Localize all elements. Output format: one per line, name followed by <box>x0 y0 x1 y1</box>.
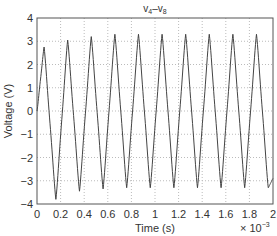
y-axis-label: Voltage (V) <box>2 84 14 138</box>
x-axis-label: Time (s) <box>135 222 175 234</box>
y-tick-label: −3 <box>20 175 33 187</box>
x-tick-label: 0.6 <box>100 208 115 220</box>
grid <box>37 18 273 204</box>
y-tick-label: 1 <box>27 82 33 94</box>
y-tick-label: −2 <box>20 152 33 164</box>
y-tick-label: 0 <box>27 105 33 117</box>
x-axis-multiplier: × 10−3 <box>240 221 270 234</box>
y-tick-label: 2 <box>27 59 33 71</box>
y-axis-ticks: 43210−1−2−3−4 <box>20 12 33 210</box>
x-tick-label: 0.8 <box>124 208 139 220</box>
x-tick-label: 0 <box>34 208 40 220</box>
x-axis-ticks: 00.20.40.60.811.21.41.61.82 <box>34 208 276 220</box>
x-tick-label: 2 <box>270 208 276 220</box>
x-tick-label: 1 <box>152 208 158 220</box>
x-tick-label: 1.4 <box>195 208 210 220</box>
chart-title: v4–v8 <box>143 3 166 15</box>
y-tick-label: 3 <box>27 35 33 47</box>
y-tick-label: −4 <box>20 198 33 210</box>
x-tick-label: 1.8 <box>242 208 257 220</box>
voltage-chart: 43210−1−2−3−4 00.20.40.60.811.21.41.61.8… <box>0 0 277 236</box>
x-tick-label: 0.4 <box>77 208 92 220</box>
x-tick-label: 1.2 <box>171 208 186 220</box>
y-tick-label: 4 <box>27 12 33 24</box>
y-tick-label: −1 <box>20 128 33 140</box>
x-tick-label: 1.6 <box>218 208 233 220</box>
x-tick-label: 0.2 <box>53 208 68 220</box>
